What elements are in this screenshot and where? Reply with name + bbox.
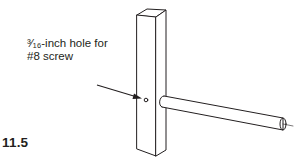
callout-line-1: ³⁄₁₆-inch hole for — [27, 37, 108, 50]
centerline — [283, 124, 293, 126]
figure-number: 11.5 — [2, 135, 28, 150]
callout-line-2: #8 screw — [27, 50, 108, 63]
dowel — [160, 96, 286, 130]
callout-text-1: -inch hole for — [41, 37, 107, 49]
post-and-dowel-drawing — [0, 0, 304, 164]
callout-label: ³⁄₁₆-inch hole for #8 screw — [27, 37, 108, 63]
fraction: ³⁄₁₆ — [27, 37, 41, 49]
post — [137, 9, 166, 156]
pointer-arrow-icon — [97, 85, 142, 99]
